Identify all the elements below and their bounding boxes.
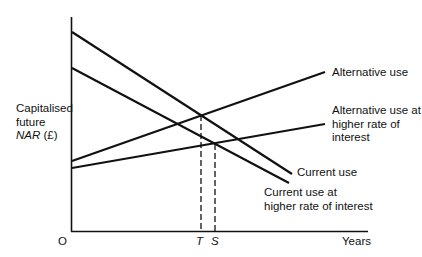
label-current-higher-line1: Current use at xyxy=(264,186,373,200)
y-axis-label-line2: future xyxy=(16,116,73,130)
y-axis-label-line1: Capitalised xyxy=(16,102,73,116)
x-axis-label: Years xyxy=(342,235,371,249)
label-alt-higher-line3: interest xyxy=(332,131,421,145)
unit-text: (£) xyxy=(40,129,57,141)
label-alt-higher-line1: Alternative use at xyxy=(332,104,421,118)
marker-s-label: S xyxy=(211,235,219,249)
nar-text: NAR xyxy=(16,129,40,141)
label-current-use: Current use xyxy=(297,166,357,180)
marker-t-label: T xyxy=(196,235,203,249)
label-alt-higher-line2: higher rate of xyxy=(332,118,421,132)
line-alternative-use xyxy=(72,72,325,161)
origin-label: O xyxy=(58,235,67,249)
line-current-use xyxy=(72,32,292,174)
label-alternative-use: Alternative use xyxy=(332,66,408,80)
line-current-use-higher-rate xyxy=(72,68,289,183)
label-alternative-use-higher-rate: Alternative use at higher rate of intere… xyxy=(332,104,421,145)
y-axis-label: Capitalised future NAR (£) xyxy=(16,102,73,143)
line-alternative-use-higher-rate xyxy=(72,124,325,168)
y-axis-label-line3: NAR (£) xyxy=(16,129,73,143)
label-current-use-higher-rate: Current use at higher rate of interest xyxy=(264,186,373,213)
label-current-higher-line2: higher rate of interest xyxy=(264,200,373,214)
